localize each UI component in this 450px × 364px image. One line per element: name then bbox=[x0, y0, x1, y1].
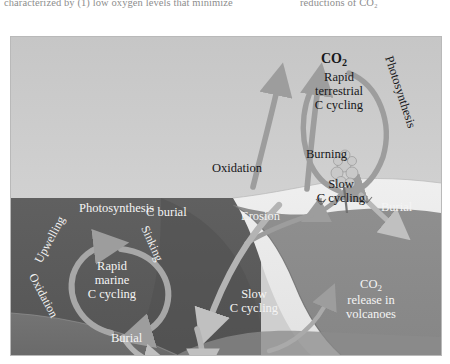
label-rapid-marine-cycling: Rapid marine C cycling bbox=[73, 259, 151, 301]
label-co2-volcano-release: CO2 release in volcanoes bbox=[329, 277, 413, 321]
label-slow-upper-line2: C cycling bbox=[306, 191, 376, 205]
label-co2-volcano-line2: release in bbox=[329, 293, 413, 307]
figure-canvas: CO2 Rapid terrestrial C cycling Photosyn… bbox=[11, 37, 441, 355]
label-rapid-terrestrial-line1: Rapid bbox=[298, 70, 380, 84]
label-photosynthesis-marine: Photosynthesis bbox=[79, 201, 154, 215]
label-rapid-marine-line3: C cycling bbox=[73, 287, 151, 301]
label-slow-lower-line1: Slow bbox=[217, 287, 291, 301]
label-oxidation-land: Oxidation bbox=[212, 161, 262, 175]
label-burial-marine: Burial bbox=[111, 331, 142, 345]
label-burning: Burning bbox=[306, 147, 347, 161]
label-co2-volcano-line1: CO2 bbox=[329, 277, 413, 293]
carbon-cycle-figure: CO2 Rapid terrestrial C cycling Photosyn… bbox=[10, 36, 442, 356]
page-top-text: characterized by (1) low oxygen levels t… bbox=[0, 0, 450, 18]
label-slow-c-cycling-lower: Slow C cycling bbox=[217, 287, 291, 315]
label-slow-c-cycling-upper: Slow C cycling bbox=[306, 177, 376, 205]
label-co2-volcano-line3: volcanoes bbox=[329, 307, 413, 321]
label-rapid-terrestrial-line3: C cycling bbox=[298, 98, 380, 112]
top-text-column-left: characterized by (1) low oxygen levels t… bbox=[4, 0, 233, 8]
label-rapid-terrestrial-cycling: Rapid terrestrial C cycling bbox=[298, 70, 380, 112]
label-co2-atmosphere: CO2 bbox=[321, 51, 347, 68]
label-erosion: Erosion bbox=[241, 209, 280, 223]
label-slow-lower-line2: C cycling bbox=[217, 301, 291, 315]
page-root: characterized by (1) low oxygen levels t… bbox=[0, 0, 450, 364]
label-burial-right: Burial bbox=[381, 200, 412, 214]
label-slow-upper-line1: Slow bbox=[306, 177, 376, 191]
label-rapid-terrestrial-line2: terrestrial bbox=[298, 84, 380, 98]
top-text-column-right: reductions of CO₂ bbox=[300, 0, 378, 8]
label-rapid-marine-line2: marine bbox=[73, 273, 151, 287]
label-rapid-marine-line1: Rapid bbox=[73, 259, 151, 273]
